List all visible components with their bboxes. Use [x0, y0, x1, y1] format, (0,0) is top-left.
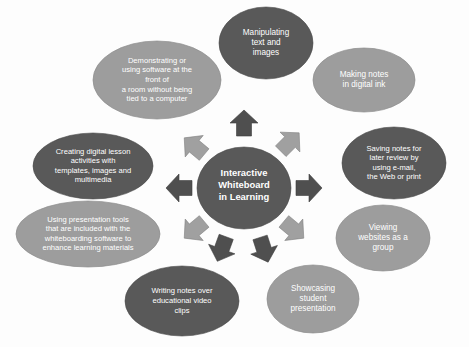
arrow-left-icon — [166, 174, 192, 202]
node-label: Saving notes forlater review byusing e-m… — [367, 144, 422, 182]
node-writing-notes-over-video-clips[interactable]: Writing notes overeducational videoclips — [125, 266, 239, 336]
node-making-notes-in-digital-ink[interactable]: Making notesin digital ink — [313, 48, 415, 112]
arrow-down-right-lower-icon — [251, 235, 278, 262]
hub-label: InteractiveWhiteboardin Learning — [218, 167, 270, 202]
node-viewing-websites-as-a-group[interactable]: Viewingwebsites as agroup — [336, 205, 430, 271]
radial-diagram: Manipulatingtext andimagesMaking notesin… — [0, 0, 469, 347]
node-demonstrating-or-using-software[interactable]: Demonstrating orusing software at thefro… — [93, 41, 221, 119]
arrow-up-right-icon — [275, 132, 299, 156]
hub-node[interactable]: InteractiveWhiteboardin Learning — [197, 147, 291, 229]
arrow-down-right-icon — [279, 216, 304, 241]
node-label: Making notesin digital ink — [340, 70, 389, 89]
diagram-canvas: Manipulatingtext andimagesMaking notesin… — [0, 0, 469, 347]
node-label: Using presentation toolsthat are include… — [42, 215, 133, 253]
arrow-down-left-lower-icon — [209, 234, 235, 261]
arrow-down-left-icon — [184, 216, 209, 241]
arrow-right-icon — [296, 174, 322, 202]
node-using-presentation-tools[interactable]: Using presentation toolsthat are include… — [16, 201, 160, 267]
hub-layer: InteractiveWhiteboardin Learning — [197, 147, 291, 229]
arrow-up-left-icon — [184, 135, 209, 160]
node-showcasing-student-presentation[interactable]: Showcasingstudentpresentation — [267, 265, 359, 333]
arrow-up-icon — [230, 110, 258, 136]
node-manipulating-text-and-images[interactable]: Manipulatingtext andimages — [219, 7, 313, 79]
node-saving-notes-for-later-review[interactable]: Saving notes forlater review byusing e-m… — [342, 127, 446, 199]
node-creating-digital-lesson-activities[interactable]: Creating digital lessonactivities withte… — [33, 133, 153, 199]
